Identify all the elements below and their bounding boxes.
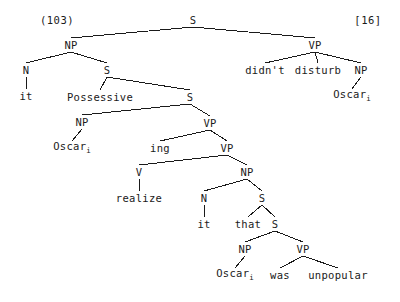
tree-edge-s-poss-to-w-possessive [100,77,107,90]
tree-node-s-embedded-2: S [272,219,279,230]
tree-node-vp-realize: VP [220,143,233,154]
tree-terminal-w-disturb: disturb [295,65,341,76]
tree-terminal-w-it-1: it [19,91,32,102]
tree-terminal-w-oscar-2: Oscari [216,268,254,281]
tree-node-vp-matrix: VP [308,40,321,51]
tree-terminal-w-possessive: Possessive [67,92,133,103]
tree-edge-vp-ing-to-w-ing [160,130,210,141]
tree-node-np-object: NP [354,65,367,76]
tree-node-vp-ing: VP [203,118,216,129]
tree-terminal-w-was: was [270,270,290,281]
syntax-tree-figure: (103)[16]SNPVPNSdidn'tdisturbNPitPossess… [0,0,400,302]
tree-edge-s-embedded-2-to-vp-was [275,231,303,242]
tree-edge-vp-ing-to-vp-realize [210,130,227,141]
citation-tag: [16] [354,15,381,26]
tree-node-np-oscar-1: NP [75,117,88,128]
tree-edge-np-subject-to-n-it-1 [26,52,71,63]
tree-edge-np-clause-to-n-it-2 [204,179,247,191]
tree-edge-s-that-to-s-embedded-2 [262,205,275,217]
tree-edge-vp-matrix-to-w-didnt [265,52,315,63]
coindex-subscript: i [86,146,91,155]
tree-edge-s-root-to-vp-matrix [193,27,315,38]
tree-node-s-embedded-1: S [187,92,194,103]
tree-terminal-w-oscar-obj: Oscari [333,89,371,102]
tree-node-vp-was: VP [296,244,309,255]
tree-edge-vp-matrix-to-w-disturb [315,52,318,63]
tree-node-v-realize: V [136,167,143,178]
tree-edge-vp-realize-to-v-realize [139,155,227,165]
tree-edge-s-embedded-1-to-np-oscar-1 [82,104,190,115]
tree-terminal-w-unpopular: unpopular [308,270,368,281]
tree-edge-vp-matrix-to-np-object [315,52,361,63]
tree-edge-s-poss-to-s-embedded-1 [107,77,190,90]
tree-terminal-w-realize: realize [116,193,162,204]
tree-edge-s-embedded-2-to-np-oscar-2 [245,231,275,242]
tree-edge-s-that-to-w-that [248,205,262,217]
tree-node-np-oscar-2: NP [238,244,251,255]
tree-edge-np-object-to-w-oscar-obj [352,77,361,89]
node-label: Oscar [333,88,366,100]
tree-edge-np-clause-to-s-that [247,179,262,191]
tree-terminal-w-that: that [235,219,262,230]
tree-terminal-w-didnt: didn't [245,65,285,76]
tree-node-s-root: S [190,15,197,26]
tree-terminal-w-it-2: it [197,219,210,230]
node-label: Oscar [53,140,86,152]
tree-node-np-clause: NP [240,167,253,178]
tree-edge-np-oscar-1-to-w-oscar-1 [72,129,82,141]
tree-edge-vp-was-to-w-was [280,256,303,268]
node-label: Oscar [216,267,249,279]
tree-node-s-poss: S [104,65,111,76]
coindex-subscript: i [249,273,254,282]
coindex-subscript: i [366,94,371,103]
tree-edge-s-root-to-np-subject [71,27,193,38]
tree-edge-s-embedded-1-to-vp-ing [190,104,210,116]
tree-terminal-w-oscar-1: Oscari [53,141,91,154]
tree-node-n-it-2: N [201,193,208,204]
tree-edge-vp-realize-to-np-clause [227,155,247,165]
tree-edge-vp-was-to-w-unpopular [303,256,338,268]
tree-node-s-that: S [259,193,266,204]
tree-node-n-it-1: N [23,65,30,76]
tree-node-np-subject: NP [64,40,77,51]
tree-terminal-w-ing: ing [150,143,170,154]
example-number: (103) [40,15,74,26]
tree-edge-np-subject-to-s-poss [71,52,107,63]
tree-edge-np-oscar-2-to-w-oscar-2 [235,256,245,268]
